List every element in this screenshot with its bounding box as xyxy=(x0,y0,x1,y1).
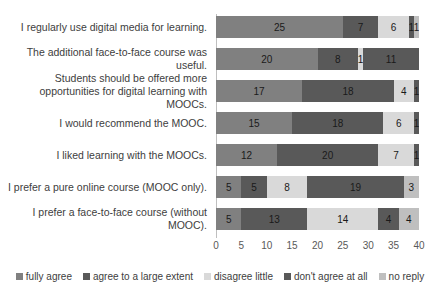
x-axis-tick-label: 5 xyxy=(239,240,245,251)
bar-segment-value: 20 xyxy=(261,54,272,65)
bar-segment: 4 xyxy=(399,208,419,230)
bar-segment: 12 xyxy=(216,144,277,166)
bar-row: 151861 xyxy=(216,112,419,134)
bar-segment-value: 4 xyxy=(386,214,392,225)
bar-segment-value: 8 xyxy=(284,182,290,193)
category-label-row: Students should be offered more opportun… xyxy=(0,80,212,102)
bar-row: 171841 xyxy=(216,80,419,102)
category-label: The additional face-to-face course was u… xyxy=(0,46,207,72)
category-label: I regularly use digital media for learni… xyxy=(21,21,207,34)
category-label-row: The additional face-to-face course was u… xyxy=(0,48,212,70)
bar-segment-value: 19 xyxy=(350,182,361,193)
bar-segment: 1 xyxy=(414,112,419,134)
category-label-row: I would recommend the MOOC. xyxy=(0,112,212,134)
bar-segment: 5 xyxy=(216,176,241,198)
bar-segment-value: 12 xyxy=(241,150,252,161)
x-axis-tick-label: 20 xyxy=(312,240,323,251)
bar-segment: 1 xyxy=(414,144,419,166)
legend-swatch-icon xyxy=(16,273,23,280)
bar-segment-value: 7 xyxy=(358,22,364,33)
legend-label: no reply xyxy=(389,271,425,282)
bar-segment: 14 xyxy=(307,208,378,230)
category-label-row: I regularly use digital media for learni… xyxy=(0,16,212,38)
bar-segment: 20 xyxy=(277,144,379,166)
legend-label: don't agree at all xyxy=(294,271,368,282)
bar-segment-value: 20 xyxy=(322,150,333,161)
bar-segment-value: 17 xyxy=(254,86,265,97)
legend-swatch-icon xyxy=(284,273,291,280)
category-label: I would recommend the MOOC. xyxy=(59,117,207,130)
category-label: Students should be offered more opportun… xyxy=(0,72,207,111)
bar-segment-value: 18 xyxy=(332,118,343,129)
legend-label: disagree little xyxy=(214,271,273,282)
bar-segment: 1 xyxy=(414,16,419,38)
bar-segment-value: 14 xyxy=(337,214,348,225)
bar-segment: 25 xyxy=(216,16,343,38)
bar-segment: 8 xyxy=(318,48,359,70)
legend-label: agree to a large extent xyxy=(93,271,193,282)
bar-segment: 7 xyxy=(378,144,414,166)
plot-area: 2576112081111718411518611220715581935131… xyxy=(216,14,419,238)
bar-row: 5131444 xyxy=(216,208,419,230)
category-label: I liked learning with the MOOCs. xyxy=(56,149,207,162)
bar-segment: 1 xyxy=(414,80,419,102)
category-label: I prefer a pure online course (MOOC only… xyxy=(8,181,207,194)
bar-segment-value: 6 xyxy=(396,118,402,129)
chart-legend: fully agreeagree to a large extentdisagr… xyxy=(0,266,440,286)
bar-segment: 15 xyxy=(216,112,292,134)
bar-segment: 8 xyxy=(267,176,308,198)
bar-row: 208111 xyxy=(216,48,419,70)
category-label-row: I prefer a face-to-face course (without … xyxy=(0,208,212,230)
bar-segment-value: 6 xyxy=(391,22,397,33)
bar-segment-value: 1 xyxy=(414,118,419,129)
x-axis-tick-label: 30 xyxy=(363,240,374,251)
x-axis-tick-label: 15 xyxy=(287,240,298,251)
legend-item[interactable]: agree to a large extent xyxy=(83,271,193,282)
bar-segment-value: 3 xyxy=(409,182,415,193)
bar-row: 257611 xyxy=(216,16,419,38)
x-axis-tick-label: 25 xyxy=(337,240,348,251)
category-label-row: I prefer a pure online course (MOOC only… xyxy=(0,176,212,198)
legend-label: fully agree xyxy=(26,271,72,282)
bar-segment: 11 xyxy=(363,48,419,70)
bar-segment: 4 xyxy=(394,80,414,102)
category-axis-labels: I regularly use digital media for learni… xyxy=(0,14,212,238)
bar-segment-value: 1 xyxy=(414,86,419,97)
bar-segment: 6 xyxy=(383,112,413,134)
stacked-bar-chart: I regularly use digital media for learni… xyxy=(0,0,440,292)
x-axis-tick-label: 10 xyxy=(261,240,272,251)
bar-segment: 17 xyxy=(216,80,302,102)
bar-segment: 6 xyxy=(378,16,408,38)
bar-segment-value: 11 xyxy=(386,54,396,65)
legend-swatch-icon xyxy=(379,273,386,280)
bar-segment: 19 xyxy=(307,176,403,198)
bar-segment: 5 xyxy=(216,208,241,230)
bar-row: 122071 xyxy=(216,144,419,166)
bar-segment: 4 xyxy=(378,208,398,230)
legend-swatch-icon xyxy=(83,273,90,280)
bar-segment: 7 xyxy=(343,16,379,38)
bar-segment-value: 8 xyxy=(335,54,341,65)
legend-item[interactable]: disagree little xyxy=(204,271,273,282)
bar-segment-value: 4 xyxy=(406,214,412,225)
x-axis-tick-label: 35 xyxy=(388,240,399,251)
bar-segment-value: 15 xyxy=(249,118,260,129)
bar-segment-value: 25 xyxy=(274,22,285,33)
bar-segment-value: 18 xyxy=(342,86,353,97)
bar-segment: 13 xyxy=(241,208,307,230)
bar-segment: 20 xyxy=(216,48,318,70)
bar-segment-value: 13 xyxy=(269,214,280,225)
bar-row: 558193 xyxy=(216,176,419,198)
category-label: I prefer a face-to-face course (without … xyxy=(0,206,207,232)
legend-item[interactable]: fully agree xyxy=(16,271,72,282)
legend-item[interactable]: don't agree at all xyxy=(284,271,368,282)
legend-swatch-icon xyxy=(204,273,211,280)
bar-segment-value: 5 xyxy=(251,182,257,193)
legend-item[interactable]: no reply xyxy=(379,271,425,282)
x-axis-tick-label: 0 xyxy=(213,240,219,251)
bar-segment: 5 xyxy=(241,176,266,198)
x-axis-tick-label: 40 xyxy=(413,240,424,251)
bar-segment: 18 xyxy=(302,80,393,102)
bar-segment-value: 7 xyxy=(393,150,399,161)
bar-segment-value: 1 xyxy=(414,22,419,33)
